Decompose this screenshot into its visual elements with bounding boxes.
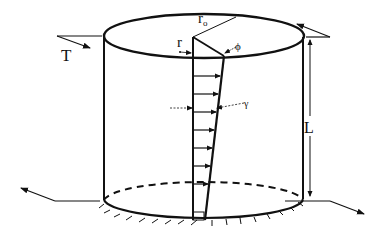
outer-radius-label: ro xyxy=(198,10,208,28)
r-dimension-arrow xyxy=(180,52,191,53)
gamma-right-pointer xyxy=(217,103,244,108)
reaction-bottom-left-arrow xyxy=(21,188,55,201)
twist-angle-label: ϕ xyxy=(235,40,241,52)
twisted-line xyxy=(205,56,224,220)
inner-radius-label: r xyxy=(177,34,182,50)
cylinder-bottom-back xyxy=(104,182,303,200)
torsion-cylinder-diagram: T r ro ϕ γ L xyxy=(0,0,381,241)
fixed-support-hatching xyxy=(99,202,303,226)
shear-strain-label: γ xyxy=(243,98,249,109)
length-label: L xyxy=(304,119,314,136)
reaction-bottom-right-arrow xyxy=(330,201,364,214)
torque-label: T xyxy=(61,46,72,65)
radius-line xyxy=(193,37,224,56)
